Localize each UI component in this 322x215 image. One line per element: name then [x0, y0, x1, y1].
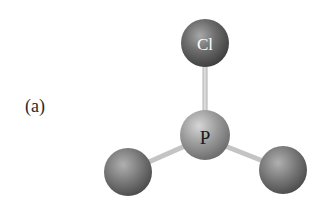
atom-right [259, 146, 307, 194]
atom-sphere [104, 148, 152, 196]
atom-cl-top: Cl [181, 19, 229, 67]
atom-left [104, 148, 152, 196]
atom-p-central: P [180, 110, 230, 160]
bond-p-cl-top [203, 60, 208, 116]
atom-sphere [259, 146, 307, 194]
atom-label-p: P [200, 127, 211, 148]
atom-label-cl: Cl [197, 35, 213, 54]
molecule-diagram: Cl P [0, 0, 322, 215]
